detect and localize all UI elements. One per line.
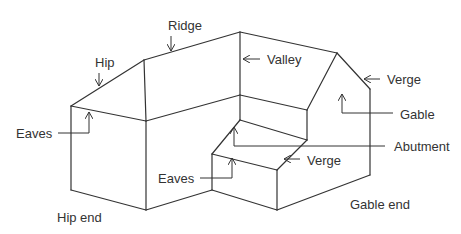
valley-eaves-edge <box>240 95 307 110</box>
label-eaves-bottom: Eaves <box>158 158 232 186</box>
label-verge-bottom-text: Verge <box>307 153 341 168</box>
porch-eaves-edge <box>212 154 277 170</box>
front-base-edge <box>146 190 212 210</box>
label-eaves-left-text: Eaves <box>16 126 53 141</box>
label-ridge: Ridge <box>168 18 202 51</box>
porch-verge-edge <box>277 140 307 170</box>
left-base-edge <box>71 190 146 210</box>
building-outline <box>71 32 370 210</box>
ridge-edge <box>144 32 240 60</box>
eaves-bottom-arrow-icon <box>200 158 232 178</box>
label-verge-top-text: Verge <box>387 72 421 87</box>
abutment-edge <box>240 120 307 140</box>
hip-front-edge <box>144 60 146 121</box>
hip-eaves-edge <box>71 106 146 121</box>
porch-base-edge <box>212 190 277 210</box>
label-abutment-text: Abutment <box>394 139 450 154</box>
abutment-arrow-icon <box>234 127 385 146</box>
label-gable-text: Gable <box>400 107 435 122</box>
label-hip-end: Hip end <box>57 210 102 225</box>
main-eaves-edge <box>146 95 240 121</box>
upper-ridge-edge <box>240 32 337 53</box>
gable-arrow-icon <box>342 94 393 113</box>
label-valley: Valley <box>243 52 302 67</box>
eaves-left-arrow-icon <box>58 112 89 133</box>
porch-roof-left-edge <box>212 120 240 154</box>
label-gable-end: Gable end <box>350 197 410 212</box>
verge-edge <box>337 53 370 89</box>
label-verge-top: Verge <box>364 72 421 87</box>
label-hip-text: Hip <box>95 55 115 70</box>
roof-diagram: Ridge Hip Valley Verge Gable Eaves Abutm… <box>0 0 461 234</box>
label-ridge-text: Ridge <box>168 18 202 33</box>
label-eaves-bottom-text: Eaves <box>158 171 195 186</box>
label-abutment: Abutment <box>234 127 450 154</box>
label-valley-text: Valley <box>267 52 302 67</box>
label-eaves-left: Eaves <box>16 112 89 141</box>
label-hip: Hip <box>95 55 115 86</box>
label-gable: Gable <box>342 94 435 122</box>
gable-slope-edge <box>307 53 337 110</box>
